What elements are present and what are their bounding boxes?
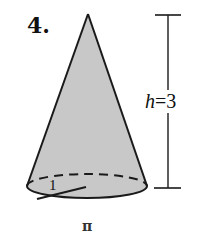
answer-label: π [82, 218, 92, 234]
radius-label: 1 [49, 177, 57, 193]
problem-number: 4. [27, 12, 50, 38]
cone-body [27, 14, 147, 198]
cone-figure: 4. 1 h=3 π [0, 0, 200, 234]
height-var: h [145, 90, 155, 112]
height-label: h=3 [145, 90, 176, 112]
height-eq: = [155, 90, 166, 112]
height-value: 3 [166, 90, 176, 112]
